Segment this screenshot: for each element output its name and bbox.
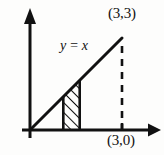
figure-container: (3,3) (3,0) y = x (0, 0, 164, 155)
y-axis (24, 8, 36, 138)
point-label-3-3: (3,3) (108, 6, 136, 21)
hatched-region (55, 70, 91, 138)
coordinate-plane-graphic (0, 0, 164, 155)
point-label-3-0: (3,0) (107, 133, 135, 148)
x-axis (22, 124, 161, 137)
hatched-region-fill (55, 70, 91, 138)
x-axis-arrowhead-icon (148, 124, 161, 137)
y-axis-arrowhead-icon (24, 8, 36, 24)
equation-label-y-equals-x: y = x (60, 39, 88, 53)
